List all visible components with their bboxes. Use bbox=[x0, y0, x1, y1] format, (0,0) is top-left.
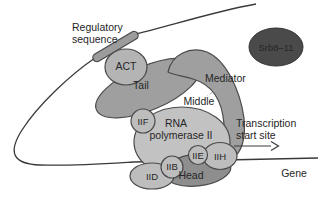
polymerase-label-line2: polymerase II bbox=[149, 129, 212, 141]
tfiif-label: IIF bbox=[137, 116, 148, 127]
mediator-label: Mediator bbox=[205, 72, 246, 84]
tfiie-label: IIE bbox=[192, 150, 204, 161]
head-label: Head bbox=[178, 169, 203, 181]
regulatory-sequence-label-line1: Regulatory bbox=[72, 21, 124, 33]
tfiih-label: IIH bbox=[214, 151, 226, 162]
gene-label: Gene bbox=[281, 167, 307, 179]
regulatory-sequence-label-line2: sequence bbox=[72, 33, 118, 45]
transcription-start-label-line2: start site bbox=[236, 129, 276, 141]
tfiid-label: IID bbox=[146, 171, 158, 182]
polymerase-label-line1: RNA bbox=[165, 117, 187, 129]
tail-label: Tail bbox=[133, 79, 149, 91]
transcription-initiation-diagram: Regulatory sequence ACT Tail Mediator Mi… bbox=[0, 0, 332, 197]
diagram-canvas: Regulatory sequence ACT Tail Mediator Mi… bbox=[0, 0, 332, 197]
act-label: ACT bbox=[116, 60, 138, 72]
transcription-start-label-line1: Transcription bbox=[236, 117, 296, 129]
middle-label: Middle bbox=[184, 95, 215, 107]
tfiib-label: IIB bbox=[166, 161, 178, 172]
srb8-11-label: Srb8–11 bbox=[258, 42, 293, 53]
